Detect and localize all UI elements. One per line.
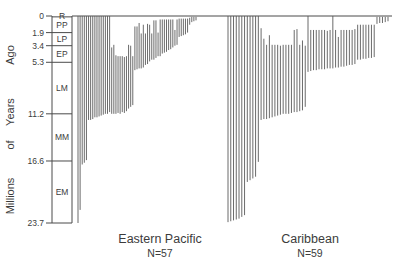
epoch-code-label: PP <box>56 20 68 30</box>
y-axis-title-word: Years <box>4 98 16 126</box>
epoch-code-label: MM <box>55 132 69 142</box>
y-tick-label: 5.3 <box>32 57 44 67</box>
y-axis-title-group: AgoYearsofMillions <box>4 45 16 214</box>
range-bars-eastern-pacific <box>78 16 196 223</box>
group-name-label: Eastern Pacific <box>118 232 201 246</box>
epoch-labels: RPPLPEPLMMMEM <box>55 11 69 197</box>
chart-canvas: AgoYearsofMillions 01.93.45.311.216.623.… <box>0 0 400 269</box>
y-axis-ticks <box>46 16 52 223</box>
epoch-code-label: LM <box>56 83 68 93</box>
y-axis-title-word: Millions <box>4 177 16 214</box>
y-tick-label: 1.9 <box>32 28 44 38</box>
group-name-label: Caribbean <box>281 232 339 246</box>
y-axis-title-word: of <box>4 139 16 149</box>
y-tick-label: 3.4 <box>32 41 44 51</box>
y-tick-label: 16.6 <box>27 156 44 166</box>
stratigraphic-range-chart: AgoYearsofMillions 01.93.45.311.216.623.… <box>0 0 400 269</box>
y-tick-label: 0 <box>39 11 44 21</box>
group-captions: Eastern PacificN=57CaribbeanN=59 <box>118 232 339 259</box>
range-bars-caribbean <box>228 16 388 222</box>
group-sample-size-label: N=57 <box>147 247 173 259</box>
epoch-code-label: EM <box>56 187 69 197</box>
y-tick-label: 23.7 <box>27 218 44 228</box>
epoch-code-label: LP <box>57 34 68 44</box>
group-sample-size-label: N=59 <box>297 247 323 259</box>
epoch-code-label: EP <box>56 49 68 59</box>
y-axis-tick-labels: 01.93.45.311.216.623.7 <box>27 11 44 228</box>
y-tick-label: 11.2 <box>28 109 44 119</box>
y-axis-title-word: Ago <box>4 45 16 65</box>
